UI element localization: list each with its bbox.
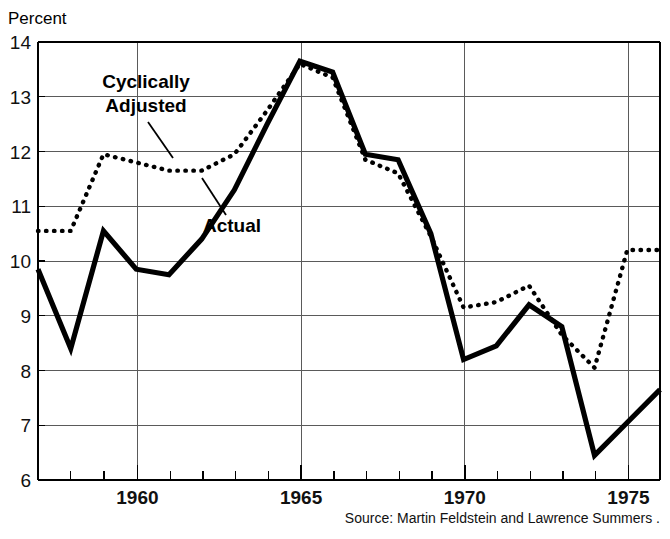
source-note: Source: Martin Feldstein and Lawrence Su… bbox=[345, 510, 660, 526]
ytick-label-14: 14 bbox=[10, 32, 32, 53]
ytick-label-10: 10 bbox=[10, 251, 31, 272]
ytick-label-11: 11 bbox=[11, 196, 31, 217]
ytick-label-9: 9 bbox=[20, 306, 31, 327]
ytick-label-7: 7 bbox=[20, 415, 31, 436]
chart-figure: 14 13 12 11 10 9 8 7 6 1960 1965 1970 19… bbox=[0, 0, 670, 539]
y-axis-tick-labels: 14 13 12 11 10 9 8 7 6 bbox=[10, 32, 32, 491]
ytick-label-8: 8 bbox=[20, 361, 31, 382]
annotation-actual-label: Actual bbox=[203, 215, 261, 236]
annotation-cyclically-adjusted-line2: Adjusted bbox=[105, 95, 186, 116]
ytick-label-6: 6 bbox=[20, 470, 31, 491]
ytick-label-13: 13 bbox=[10, 87, 31, 108]
y-axis-unit-label: Percent bbox=[8, 9, 67, 28]
xtick-label-1965: 1965 bbox=[280, 487, 323, 508]
xtick-label-1975: 1975 bbox=[607, 487, 650, 508]
annotation-cyclically-adjusted-line1: Cyclically bbox=[102, 71, 190, 92]
xtick-label-1960: 1960 bbox=[116, 487, 158, 508]
profit-rate-line-chart: 14 13 12 11 10 9 8 7 6 1960 1965 1970 19… bbox=[0, 0, 670, 539]
ytick-label-12: 12 bbox=[10, 142, 31, 163]
x-axis-tick-labels: 1960 1965 1970 1975 bbox=[116, 487, 650, 508]
xtick-label-1970: 1970 bbox=[444, 487, 486, 508]
